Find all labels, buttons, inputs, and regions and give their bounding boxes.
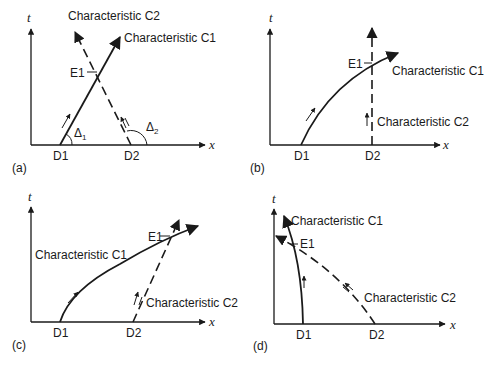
panel-tag: (a) xyxy=(12,161,27,175)
c2-label: Characteristic C2 xyxy=(146,296,238,310)
panel-a: t x Δ1 Δ2 E1 D1 D2 Characteristic C2 Cha… xyxy=(12,9,216,175)
c2-label: Characteristic C2 xyxy=(364,291,456,305)
characteristic-c2-line xyxy=(276,236,375,324)
d1-label: D1 xyxy=(296,328,312,342)
d2-label: D2 xyxy=(365,149,381,163)
panel-tag: (d) xyxy=(253,339,268,353)
panel-c: t x E1 D1 D2 Characteristic C1 Character… xyxy=(12,189,238,352)
t-axis-label: t xyxy=(28,189,32,204)
d2-label: D2 xyxy=(369,328,385,342)
d1-label: D1 xyxy=(53,326,69,340)
c1-label: Characteristic C1 xyxy=(35,248,127,262)
d1-label: D1 xyxy=(53,149,69,163)
t-axis-label: t xyxy=(272,191,276,206)
characteristics-diagram: t x Δ1 Δ2 E1 D1 D2 Characteristic C2 Cha… xyxy=(0,0,491,369)
c1-direction-arrow-icon xyxy=(306,108,315,121)
panel-tag: (b) xyxy=(250,161,265,175)
c1-direction-arrow-icon xyxy=(68,292,78,303)
c1-label: Characteristic C1 xyxy=(124,31,216,45)
panel-tag: (c) xyxy=(12,338,26,352)
t-axis-label: t xyxy=(27,10,31,25)
angle1-arc xyxy=(66,134,72,145)
characteristic-c1-line xyxy=(60,37,120,145)
panel-b: t x E1 D1 D2 Characteristic C1 Character… xyxy=(250,10,484,175)
x-axis-label: x xyxy=(442,137,449,152)
c2-direction-tick xyxy=(125,118,129,126)
c2-direction-arrow-icon xyxy=(134,292,138,305)
angle2-label: Δ2 xyxy=(146,120,159,136)
x-axis-label: x xyxy=(208,137,215,152)
c1-label: Characteristic C1 xyxy=(392,64,484,78)
d2-label: D2 xyxy=(126,326,142,340)
c2-label: Characteristic C2 xyxy=(377,115,469,129)
x-axis-label: x xyxy=(208,314,215,329)
t-axis-label: t xyxy=(269,10,273,25)
e1-label: E1 xyxy=(70,66,85,80)
e1-label: E1 xyxy=(300,237,315,251)
x-axis-label: x xyxy=(449,317,456,332)
e1-label: E1 xyxy=(348,57,363,71)
e1-label: E1 xyxy=(148,230,163,244)
angle1-label: Δ1 xyxy=(74,126,87,142)
panel-d: t x E1 D1 D2 Characteristic C1 Character… xyxy=(253,191,456,353)
c2-label: Characteristic C2 xyxy=(68,9,160,23)
characteristic-c1-curve xyxy=(284,216,303,324)
c1-label: Characteristic C1 xyxy=(291,214,383,228)
d1-label: D1 xyxy=(294,149,310,163)
c1-direction-arrow-icon xyxy=(62,114,70,128)
d2-label: D2 xyxy=(124,149,140,163)
characteristic-c2-line xyxy=(75,32,131,145)
